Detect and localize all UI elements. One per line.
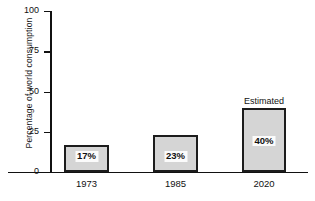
tick-mark [44, 132, 51, 133]
bar-value-label: 23% [164, 151, 187, 162]
estimated-annotation: Estimated [244, 96, 284, 106]
bar-2020: Estimated 40% [242, 108, 286, 173]
y-tick-label: 0 [13, 167, 39, 176]
bar-1973: 17% [64, 145, 109, 172]
bar-chart-figure: Percentage of world consumption 100 75 5… [0, 0, 315, 201]
bar-value-label: 17% [75, 151, 98, 162]
x-category-label-1985: 1985 [153, 178, 198, 189]
bar-value-label: 40% [252, 136, 275, 147]
x-category-label-1973: 1973 [64, 178, 109, 189]
y-tick-label: 50 [13, 87, 39, 96]
y-tick-label: 25 [13, 127, 39, 136]
tick-mark [44, 11, 51, 12]
bar-1985: 23% [153, 135, 198, 172]
y-tick-label: 100 [13, 6, 39, 15]
tick-mark [44, 92, 51, 93]
tick-mark [44, 51, 51, 52]
x-category-label-2020: 2020 [242, 178, 286, 189]
y-tick-label: 75 [13, 46, 39, 55]
y-axis-title: Percentage of world consumption [24, 0, 34, 168]
